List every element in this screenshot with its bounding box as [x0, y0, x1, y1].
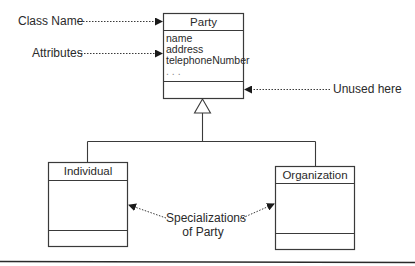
- unused-here-label: Unused here: [333, 82, 402, 96]
- inheritance-triangle-icon: [195, 99, 211, 113]
- party-attribute-ellipsis: . . .: [166, 66, 181, 78]
- attributes-label: Attributes: [32, 46, 83, 60]
- specializations-label-line1: Specializations: [166, 211, 240, 225]
- party-class-name: Party: [164, 15, 243, 29]
- individual-class-name: Individual: [49, 164, 127, 178]
- specializations-label: Specializations of Party: [166, 211, 240, 239]
- generalization-connector: [88, 99, 316, 167]
- bottom-rule-divider: [0, 262, 415, 263]
- class-name-label: Class Name: [18, 14, 83, 28]
- organization-class-name: Organization: [276, 168, 354, 182]
- specialization-individual-arrow-icon: [129, 205, 166, 218]
- specializations-label-line2: of Party: [166, 225, 240, 239]
